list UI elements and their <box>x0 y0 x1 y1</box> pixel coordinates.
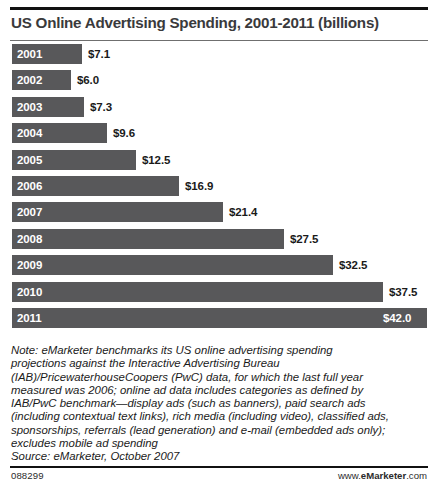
bar-2008 <box>12 229 284 249</box>
bar-value-label: $6.0 <box>77 70 99 90</box>
footer-chart-id: 088299 <box>11 470 44 481</box>
bar-row: 2002$6.0 <box>12 70 438 90</box>
bar-value-label: $42.0 <box>383 308 411 328</box>
bar-category-label: 2007 <box>17 202 42 222</box>
bar-category-label: 2009 <box>17 255 42 275</box>
bar-row: 2001$7.1 <box>12 44 438 64</box>
bar-2007 <box>12 202 223 222</box>
footer-brand-name: eMarketer <box>361 470 406 481</box>
bar-value-label: $7.1 <box>88 44 110 64</box>
bar-category-label: 2008 <box>17 229 42 249</box>
footer-brand-suffix: .com <box>406 470 427 481</box>
bar-value-label: $37.5 <box>389 282 417 302</box>
bar-category-label: 2003 <box>17 97 42 117</box>
bar-row: 2004$9.6 <box>12 123 438 143</box>
chart-note-line: sponsorships, referrals (lead generation… <box>11 424 429 437</box>
top-divider <box>10 7 428 10</box>
chart-note-line: projections against the Interactive Adve… <box>11 357 429 370</box>
chart-note-line: (IAB)/PricewaterhouseCoopers (PwC) data,… <box>11 371 429 384</box>
chart-note-line: IAB/PwC benchmark—display ads (such as b… <box>11 397 429 410</box>
chart-note-line: measured was 2006; online ad data includ… <box>11 384 429 397</box>
bar-value-label: $21.4 <box>229 202 257 222</box>
bar-row: 2010$37.5 <box>12 282 438 302</box>
chart-note: Note: eMarketer benchmarks its US online… <box>11 344 429 464</box>
chart-source-line: Source: eMarketer, October 2007 <box>11 450 429 463</box>
bar-category-label: 2010 <box>17 282 42 302</box>
bar-category-label: 2006 <box>17 176 42 196</box>
bar-2011 <box>12 308 427 328</box>
bar-category-label: 2011 <box>17 308 42 328</box>
bar-row: 2009$32.5 <box>12 255 438 275</box>
chart-card: US Online Advertising Spending, 2001-201… <box>0 0 438 484</box>
footer-divider <box>10 466 428 468</box>
bar-row: 2008$27.5 <box>12 229 438 249</box>
page-title: US Online Advertising Spending, 2001-201… <box>11 14 431 31</box>
bar-category-label: 2002 <box>17 70 42 90</box>
bar-category-label: 2005 <box>17 150 42 170</box>
bar-value-label: $27.5 <box>290 229 318 249</box>
bar-category-label: 2001 <box>17 44 42 64</box>
bar-row: 2006$16.9 <box>12 176 438 196</box>
chart-note-line: Note: eMarketer benchmarks its US online… <box>11 344 429 357</box>
bar-value-label: $12.5 <box>142 150 170 170</box>
bar-row: 2011$42.0 <box>12 308 438 328</box>
bar-category-label: 2004 <box>17 123 42 143</box>
bar-2009 <box>12 255 333 275</box>
chart-note-line: (including contextual text links), rich … <box>11 410 429 423</box>
bar-2010 <box>12 282 383 302</box>
bar-row: 2007$21.4 <box>12 202 438 222</box>
bar-row: 2003$7.3 <box>12 97 438 117</box>
footer-brand-prefix: www. <box>338 470 361 481</box>
bar-value-label: $16.9 <box>185 176 213 196</box>
bar-value-label: $7.3 <box>90 97 112 117</box>
bar-value-label: $32.5 <box>339 255 367 275</box>
bar-row: 2005$12.5 <box>12 150 438 170</box>
footer-brand: www.eMarketer.com <box>338 470 427 481</box>
title-divider <box>10 40 428 41</box>
chart-note-line: excludes mobile ad spending <box>11 437 429 450</box>
bar-value-label: $9.6 <box>113 123 135 143</box>
bar-chart-plot: 2001$7.12002$6.02003$7.32004$9.62005$12.… <box>0 44 438 336</box>
